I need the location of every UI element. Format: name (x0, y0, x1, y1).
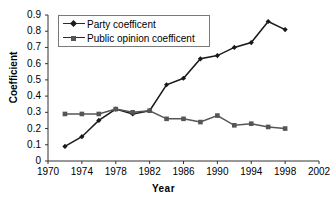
x-tick-label: 1994 (234, 166, 268, 177)
x-tick-label: 1974 (65, 166, 99, 177)
y-tick-label: 0.5 (15, 74, 41, 85)
y-tick-label: 0.7 (15, 41, 41, 52)
data-point (215, 53, 220, 58)
data-point (215, 113, 220, 118)
y-tick-label: 0.9 (15, 9, 41, 20)
x-tick-label: 2002 (302, 166, 335, 177)
x-tick-label: 1986 (167, 166, 201, 177)
x-tick-label: 1978 (99, 166, 133, 177)
data-point (97, 112, 102, 117)
data-point (232, 45, 237, 50)
data-point (80, 112, 85, 117)
legend-item-party: Party coefficent (63, 17, 156, 31)
data-point (198, 120, 203, 125)
legend-label-public-opinion: Public opinion coefficent (87, 33, 195, 44)
data-point (164, 117, 169, 122)
y-tick-label: 0 (15, 155, 41, 166)
x-tick-label: 1990 (200, 166, 234, 177)
data-point (266, 125, 271, 130)
y-tick-label: 0.1 (15, 139, 41, 150)
legend-label-party: Party coefficent (87, 19, 156, 30)
data-point (232, 123, 237, 128)
y-tick-label: 0.2 (15, 123, 41, 134)
y-tick-label: 0.4 (15, 90, 41, 101)
x-tick-label: 1970 (31, 166, 65, 177)
data-point (113, 107, 118, 112)
diamond-marker-icon (63, 18, 85, 30)
square-marker-icon (63, 32, 85, 44)
y-tick-label: 0.3 (15, 106, 41, 117)
data-point (283, 126, 288, 131)
data-point (181, 117, 186, 122)
x-tick-label: 1982 (133, 166, 167, 177)
data-point (63, 112, 68, 117)
y-tick-label: 0.6 (15, 58, 41, 69)
data-point (283, 27, 288, 32)
x-axis-title: Year (0, 183, 327, 194)
y-tick-label: 0.8 (15, 25, 41, 36)
x-tick-label: 1998 (268, 166, 302, 177)
legend-item-public-opinion: Public opinion coefficent (63, 31, 195, 45)
data-point (249, 121, 254, 126)
chart-legend: Party coefficent Public opinion coeffice… (58, 15, 210, 47)
data-point (130, 110, 135, 115)
data-point (147, 108, 152, 113)
